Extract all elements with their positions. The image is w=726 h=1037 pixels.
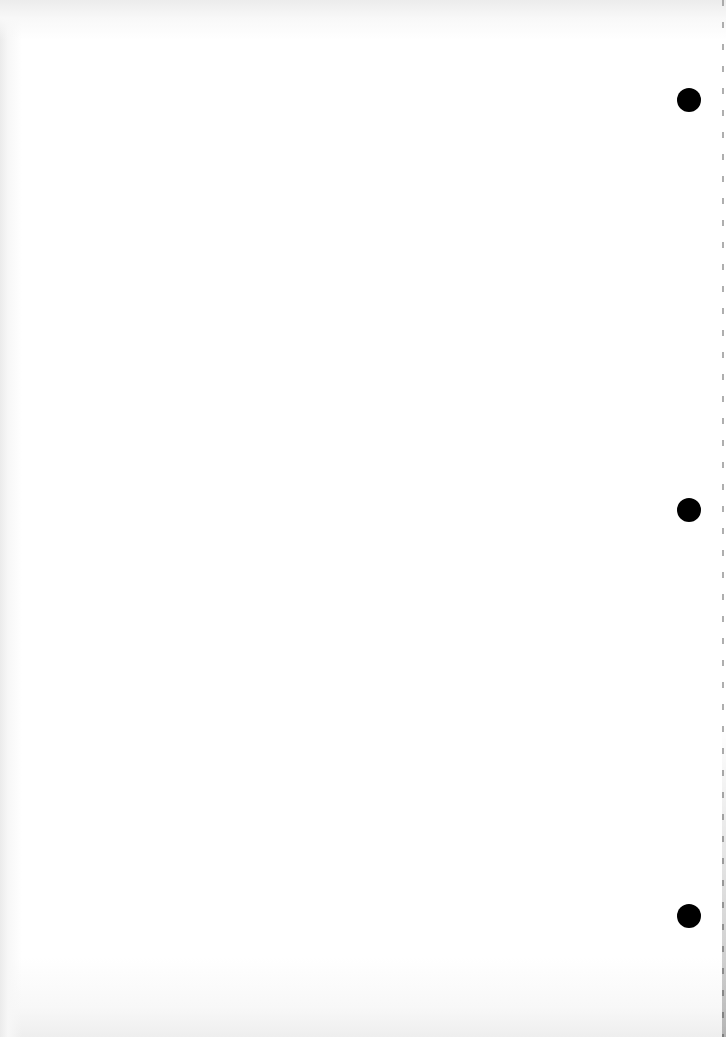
blank-document-page (0, 0, 726, 1037)
punch-hole-middle (677, 498, 701, 522)
page-edge-shadow (722, 0, 726, 1037)
punch-hole-top (677, 88, 701, 112)
punch-hole-bottom (677, 904, 701, 928)
